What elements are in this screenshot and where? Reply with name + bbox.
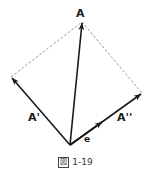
vector-a [70, 23, 82, 145]
label-a-prime: A' [28, 112, 40, 123]
vector-decomposition-diagram: A A' A'' e 図1-19 [0, 0, 151, 176]
dashed-edge-a-prime-to-a [11, 22, 82, 77]
figure-caption: 図1-19 [0, 157, 151, 168]
caption-number: 1-19 [72, 157, 92, 167]
diagram-canvas [0, 0, 151, 176]
label-e: e [84, 135, 90, 144]
caption-prefix: 図 [58, 157, 69, 168]
label-a: A [76, 8, 85, 19]
vector-a-prime [12, 78, 70, 145]
dashed-edge-a-to-a-double-prime [82, 22, 142, 93]
label-a-double-prime: A'' [117, 112, 132, 123]
